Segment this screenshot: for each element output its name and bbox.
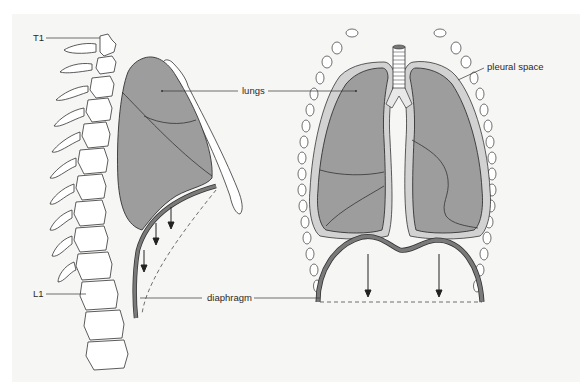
label-l1: L1	[33, 289, 44, 299]
label-diaphragm: diaphragm	[207, 293, 252, 303]
down-arrow-icon	[365, 254, 442, 297]
label-lungs: lungs	[242, 86, 265, 96]
thorax-diagram	[0, 0, 583, 392]
spine-illustration	[50, 34, 128, 370]
label-t1: T1	[33, 33, 44, 43]
label-pleural-space: pleural space	[487, 62, 544, 72]
lateral-lung-illustration	[117, 57, 212, 230]
